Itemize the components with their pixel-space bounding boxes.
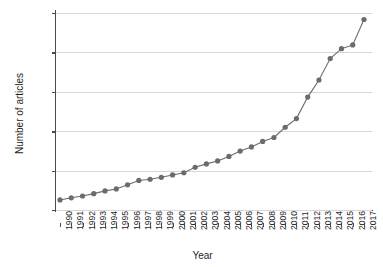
x-tick-mark-2006 bbox=[240, 223, 241, 227]
x-tick-mark-2014 bbox=[330, 223, 331, 227]
line-chart: Number of articles 010002000300040005000… bbox=[0, 0, 383, 267]
data-point-1998 bbox=[147, 177, 152, 182]
data-point-1993 bbox=[91, 191, 96, 196]
data-point-1990 bbox=[57, 197, 62, 202]
plot-area: 010002000300040005000 199019911992199319… bbox=[56, 12, 372, 210]
data-point-2011 bbox=[294, 116, 299, 121]
x-tick-mark-1996 bbox=[128, 223, 129, 227]
x-tick-mark-1997 bbox=[139, 223, 140, 227]
x-axis-title-text: Year bbox=[192, 250, 212, 261]
x-tick-mark-1998 bbox=[150, 223, 151, 227]
data-point-2010 bbox=[283, 125, 288, 130]
data-point-2012 bbox=[305, 95, 310, 100]
x-tick-mark-2009 bbox=[274, 223, 275, 227]
y-axis-title: Number of articles bbox=[14, 49, 25, 179]
data-point-1997 bbox=[136, 178, 141, 183]
x-tick-mark-1990 bbox=[60, 223, 61, 227]
x-tick-mark-2016 bbox=[353, 223, 354, 227]
x-tick-mark-2002 bbox=[195, 223, 196, 227]
x-tick-mark-1995 bbox=[116, 223, 117, 227]
x-tick-mark-2010 bbox=[285, 223, 286, 227]
series-line-number-of-articles bbox=[56, 12, 372, 222]
data-point-2004 bbox=[215, 158, 220, 163]
x-tick-mark-2007 bbox=[251, 223, 252, 227]
data-point-2016 bbox=[350, 42, 355, 47]
x-tick-mark-2004 bbox=[218, 223, 219, 227]
x-tick-mark-2000 bbox=[173, 223, 174, 227]
x-tick-mark-2005 bbox=[229, 223, 230, 227]
data-point-2002 bbox=[193, 165, 198, 170]
x-tick-mark-1993 bbox=[94, 223, 95, 227]
data-point-2013 bbox=[316, 77, 321, 82]
x-tick-mark-1994 bbox=[105, 223, 106, 227]
data-point-2006 bbox=[238, 148, 243, 153]
data-point-1994 bbox=[102, 188, 107, 193]
x-tick-mark-2013 bbox=[319, 223, 320, 227]
data-point-2003 bbox=[204, 161, 209, 166]
x-tick-mark-2017 bbox=[364, 223, 365, 227]
data-point-2009 bbox=[271, 135, 276, 140]
x-tick-mark-2012 bbox=[308, 223, 309, 227]
data-point-1999 bbox=[159, 175, 164, 180]
data-point-1991 bbox=[69, 195, 74, 200]
x-tick-mark-1991 bbox=[71, 223, 72, 227]
x-tick-mark-2008 bbox=[263, 223, 264, 227]
x-tick-mark-1992 bbox=[83, 223, 84, 227]
x-axis-title: Year bbox=[0, 250, 383, 261]
x-tick-mark-2001 bbox=[184, 223, 185, 227]
data-point-2001 bbox=[181, 170, 186, 175]
data-point-2008 bbox=[260, 139, 265, 144]
x-tick-mark-2003 bbox=[206, 223, 207, 227]
data-point-2000 bbox=[170, 172, 175, 177]
data-point-2017 bbox=[361, 17, 366, 22]
data-point-1996 bbox=[125, 182, 130, 187]
data-point-2014 bbox=[328, 56, 333, 61]
x-tick-mark-2011 bbox=[296, 223, 297, 227]
data-point-1992 bbox=[80, 193, 85, 198]
data-point-2007 bbox=[249, 144, 254, 149]
series-path bbox=[60, 20, 364, 200]
data-point-2005 bbox=[226, 154, 231, 159]
x-tick-mark-2015 bbox=[341, 223, 342, 227]
data-point-1995 bbox=[114, 186, 119, 191]
x-tick-mark-1999 bbox=[161, 223, 162, 227]
data-point-2015 bbox=[339, 46, 344, 51]
